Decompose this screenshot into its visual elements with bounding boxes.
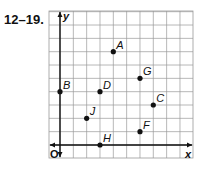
point-g xyxy=(137,76,142,81)
point-f xyxy=(137,129,142,134)
point-b xyxy=(57,89,62,94)
point-j xyxy=(84,116,89,121)
point-c xyxy=(151,102,156,107)
x-axis-arrow-right-icon xyxy=(187,143,192,148)
x-axis-arrow-left-icon xyxy=(50,143,55,148)
origin-label: O xyxy=(50,148,59,160)
grid-lines xyxy=(49,11,193,158)
point-h xyxy=(97,142,102,147)
point-label-f: F xyxy=(143,119,151,131)
y-axis-arrow-up-icon xyxy=(58,12,63,17)
point-a xyxy=(111,49,116,54)
point-label-a: A xyxy=(115,39,123,51)
axes xyxy=(50,12,192,157)
grid-border xyxy=(49,11,193,158)
y-axis-label: y xyxy=(62,10,70,22)
point-label-d: D xyxy=(103,79,111,91)
point-d xyxy=(97,89,102,94)
point-label-c: C xyxy=(156,92,164,104)
point-label-j: J xyxy=(89,105,96,117)
point-label-b: B xyxy=(63,79,70,91)
coordinate-grid: ABCDFGHJ x y O xyxy=(0,0,206,172)
point-label-g: G xyxy=(143,65,152,77)
point-label-h: H xyxy=(103,132,111,144)
x-axis-label: x xyxy=(184,148,192,160)
